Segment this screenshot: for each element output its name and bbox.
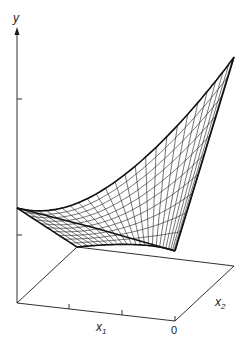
surface-plot	[0, 0, 249, 349]
x1-axis	[17, 303, 175, 321]
surface-mesh	[17, 57, 234, 251]
x1-axis-label: x1	[96, 320, 106, 336]
surface-plot-figure: y x1 x2 0	[0, 0, 249, 349]
x2-axis-label: x2	[215, 295, 225, 311]
base-back-edge	[77, 247, 234, 266]
y-axis-arrow-icon	[15, 27, 20, 35]
origin-label: 0	[171, 324, 177, 336]
base-left-edge	[17, 247, 77, 303]
x2-axis	[175, 266, 234, 321]
y-axis-label: y	[13, 11, 19, 25]
